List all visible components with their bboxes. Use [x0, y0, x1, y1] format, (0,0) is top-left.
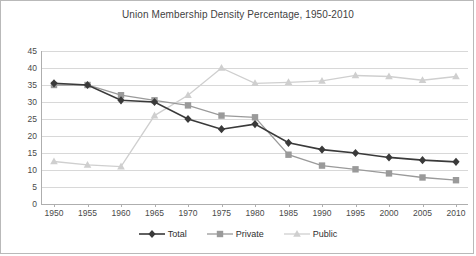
data-point-total: [251, 120, 258, 128]
legend-label: Private: [236, 230, 264, 239]
chart-legend: TotalPrivatePublic: [1, 229, 475, 239]
y-axis-tick-label: 0: [32, 199, 37, 209]
x-axis-tick-mark: [389, 204, 390, 207]
y-axis-tick-label: 10: [28, 165, 37, 175]
x-axis-tick-label: 1955: [78, 208, 97, 218]
data-point-public: [452, 73, 460, 80]
chart-container: Union Membership Density Percentage, 195…: [0, 0, 474, 254]
legend-item-private[interactable]: Private: [207, 229, 264, 239]
legend-item-public[interactable]: Public: [284, 229, 338, 239]
x-axis-tick-label: 1990: [313, 208, 332, 218]
data-point-private: [319, 162, 325, 168]
y-axis-tick-label: 15: [28, 148, 37, 158]
x-axis-tick-label: 1965: [145, 208, 164, 218]
x-axis-tick-mark: [188, 204, 189, 207]
data-point-total: [385, 153, 392, 161]
data-point-total: [218, 125, 225, 133]
x-axis-tick-mark: [54, 204, 55, 207]
data-point-public: [151, 112, 159, 119]
x-axis-tick-label: 1950: [45, 208, 64, 218]
legend-marker-square-icon: [207, 229, 233, 239]
plot-area: 051015202530354045 195019551960196519701…: [41, 51, 468, 205]
data-point-private: [352, 166, 358, 172]
x-axis-tick-mark: [322, 204, 323, 207]
data-point-total: [184, 115, 191, 123]
series-lines: [42, 51, 468, 204]
data-point-public: [352, 71, 360, 78]
x-axis-tick-label: 1970: [179, 208, 198, 218]
data-point-private: [185, 102, 191, 108]
y-axis-tick-label: 20: [28, 131, 37, 141]
chart-title: Union Membership Density Percentage, 195…: [1, 9, 475, 20]
x-axis-tick-label: 1975: [212, 208, 231, 218]
data-point-private: [285, 152, 291, 158]
legend-item-total[interactable]: Total: [139, 229, 187, 239]
data-point-private: [252, 114, 258, 120]
y-axis-tick-label: 40: [28, 63, 37, 73]
data-point-total: [419, 156, 426, 164]
y-axis-tick-label: 45: [28, 46, 37, 56]
x-axis-tick-label: 1985: [279, 208, 298, 218]
x-axis-tick-mark: [456, 204, 457, 207]
data-point-total: [352, 149, 359, 157]
data-point-private: [453, 177, 459, 183]
x-axis-tick-mark: [289, 204, 290, 207]
y-axis-tick-label: 30: [28, 97, 37, 107]
x-axis-tick-mark: [356, 204, 357, 207]
data-point-private: [218, 112, 224, 118]
y-axis-tick-label: 25: [28, 114, 37, 124]
data-point-private: [386, 170, 392, 176]
data-point-public: [50, 158, 58, 165]
x-axis-tick-label: 2010: [447, 208, 466, 218]
x-axis-tick-label: 1995: [346, 208, 365, 218]
legend-marker-triangle-icon: [284, 229, 310, 239]
x-axis-tick-label: 2000: [380, 208, 399, 218]
y-axis-tick-label: 35: [28, 80, 37, 90]
x-axis-tick-mark: [222, 204, 223, 207]
legend-label: Total: [168, 230, 187, 239]
data-point-private: [419, 174, 425, 180]
data-point-total: [285, 139, 292, 147]
x-axis-tick-label: 1960: [112, 208, 131, 218]
x-axis-tick-mark: [88, 204, 89, 207]
x-axis-tick-label: 1980: [246, 208, 265, 218]
data-point-total: [318, 146, 325, 154]
legend-label: Public: [313, 230, 338, 239]
y-axis-tick-label: 5: [32, 182, 37, 192]
x-axis-tick-label: 2005: [413, 208, 432, 218]
x-axis-tick-mark: [155, 204, 156, 207]
data-point-public: [218, 64, 226, 71]
legend-marker-diamond-icon: [139, 229, 165, 239]
data-point-total: [452, 158, 459, 166]
x-axis-tick-mark: [423, 204, 424, 207]
x-axis-tick-mark: [255, 204, 256, 207]
x-axis-tick-mark: [121, 204, 122, 207]
